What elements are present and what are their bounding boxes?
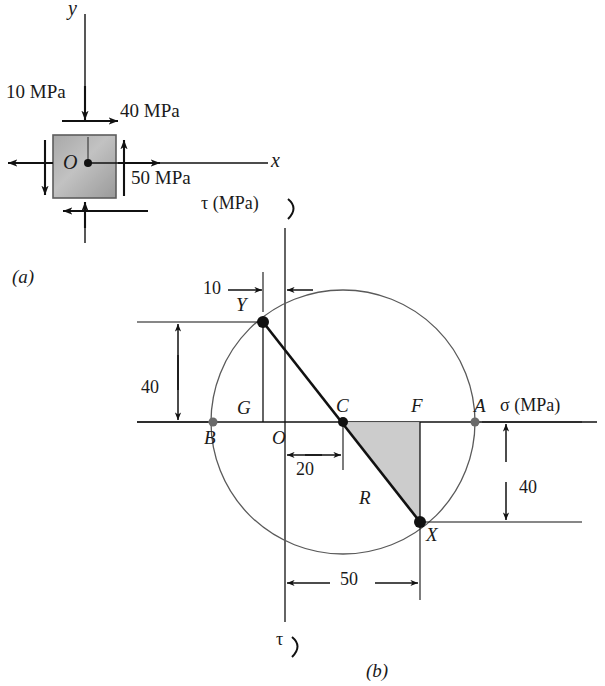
- point-Y-label: Y: [236, 295, 247, 314]
- point-B-label: B: [204, 428, 216, 447]
- sigma-y-value-label: 10 MPa: [6, 82, 66, 101]
- figure-canvas: [0, 0, 605, 686]
- point-A-marker: [471, 418, 480, 427]
- point-X-label: X: [426, 525, 438, 544]
- axis-tau-label: τ (MPa): [201, 194, 259, 212]
- dim-40-right-label: 40: [519, 478, 537, 496]
- point-B-marker: [209, 418, 218, 427]
- point-C-label: C: [336, 396, 349, 415]
- sigma-x-value-label: 50 MPa: [131, 168, 191, 187]
- axis-x-label: x: [271, 150, 280, 170]
- dim-40-left-label: 40: [141, 378, 159, 396]
- axis-sigma-label: σ (MPa): [500, 396, 560, 414]
- panel-b-caption: (b): [366, 661, 388, 680]
- tau-xy-value-label: 40 MPa: [120, 101, 180, 120]
- dim-10-label: 10: [203, 279, 221, 297]
- dim-50-label: 50: [340, 570, 358, 588]
- point-A-label: A: [474, 396, 486, 415]
- radius-label: R: [359, 488, 371, 507]
- tau-rotation-arc-top: [288, 199, 294, 219]
- tau-rotation-arc-bottom: [292, 637, 298, 657]
- panel-a-caption: (a): [12, 267, 34, 286]
- panel-a-origin-label: O: [63, 152, 77, 172]
- element-center-dot: [84, 159, 92, 167]
- axis-y-label: y: [68, 0, 77, 18]
- figure-root: y 10 MPa 40 MPa 50 MPa O x (a) τ (MPa) σ…: [0, 0, 605, 686]
- panel-b-origin-label: O: [272, 428, 286, 447]
- point-F-label: F: [411, 396, 423, 415]
- dim-20-label: 20: [296, 460, 314, 478]
- point-C-marker: [338, 417, 348, 427]
- point-Y-marker: [257, 316, 269, 328]
- axis-tau-bottom-label: τ: [276, 630, 283, 648]
- point-G-label: G: [237, 398, 251, 417]
- point-X-marker: [414, 516, 426, 528]
